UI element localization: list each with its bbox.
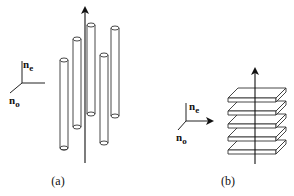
- rod: [100, 53, 108, 145]
- figure-canvas: ne no: [0, 0, 294, 196]
- plate: [228, 140, 286, 154]
- caption-a: (a): [51, 174, 64, 188]
- ne-label-b: ne: [189, 100, 199, 115]
- no-label-a: no: [9, 94, 20, 109]
- caption-b: (b): [221, 174, 235, 188]
- rods: [60, 23, 119, 150]
- no-label-b: no: [176, 131, 187, 146]
- rod: [87, 23, 95, 116]
- plates: [228, 88, 286, 154]
- plate: [228, 88, 286, 102]
- rod: [111, 26, 119, 118]
- panel-b: ne no: [176, 71, 286, 188]
- rod: [60, 58, 68, 150]
- rod: [73, 37, 81, 129]
- axis-no-line: [178, 121, 186, 130]
- panel-a: ne no: [9, 10, 119, 188]
- axis-no-line: [10, 83, 22, 93]
- plate: [228, 101, 286, 115]
- plate: [228, 127, 286, 141]
- plate: [228, 114, 286, 128]
- ne-label-a: ne: [23, 58, 33, 73]
